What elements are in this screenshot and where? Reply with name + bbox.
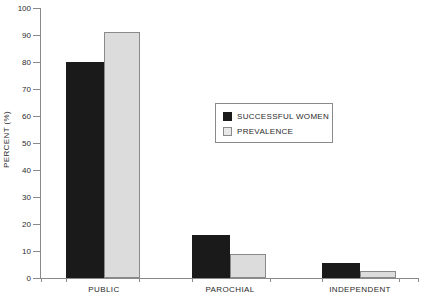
x-axis-tick xyxy=(66,278,67,282)
x-axis-category-label-public: PUBLIC xyxy=(88,285,119,294)
bar-chart: PERCENT (%) 0102030405060708090100 PUBLI… xyxy=(0,0,431,301)
legend-item-prevalence: PREVALENCE xyxy=(223,125,325,138)
y-axis-tick-label: 80 xyxy=(3,58,31,67)
x-axis-tick xyxy=(399,278,400,282)
y-axis-tick xyxy=(33,116,40,117)
y-axis-tick-label: 90 xyxy=(3,31,31,40)
chart-legend: SUCCESSFUL WOMEN PREVALENCE xyxy=(215,103,333,143)
x-axis-tick xyxy=(139,278,140,282)
y-axis-tick xyxy=(33,8,40,9)
x-axis-tick xyxy=(322,278,323,282)
y-axis-tick xyxy=(33,197,40,198)
legend-label-successful-women: SUCCESSFUL WOMEN xyxy=(237,112,329,121)
bar-independent-prevalence xyxy=(360,271,396,278)
y-axis-tick-label: 0 xyxy=(3,274,31,283)
y-axis-tick-label: 30 xyxy=(3,193,31,202)
y-axis-tick-label: 70 xyxy=(3,85,31,94)
bar-independent-successful-women xyxy=(322,263,360,278)
y-axis-tick xyxy=(33,251,40,252)
y-axis-tick xyxy=(33,35,40,36)
legend-item-successful-women: SUCCESSFUL WOMEN xyxy=(223,110,325,123)
legend-swatch-prevalence-icon xyxy=(223,127,232,136)
plot-area xyxy=(41,8,418,278)
y-axis-tick xyxy=(33,278,40,279)
bar-public-successful-women xyxy=(66,62,104,278)
y-axis-tick-label: 20 xyxy=(3,220,31,229)
y-axis-tick-label: 60 xyxy=(3,112,31,121)
bar-parochial-prevalence xyxy=(230,254,266,278)
y-axis-tick xyxy=(33,224,40,225)
x-axis-tick xyxy=(418,278,419,282)
x-axis-line xyxy=(40,278,418,279)
y-axis-tick xyxy=(33,143,40,144)
x-axis-tick xyxy=(41,278,42,282)
y-axis-tick-label: 50 xyxy=(3,139,31,148)
legend-label-prevalence: PREVALENCE xyxy=(237,127,293,136)
y-axis-tick xyxy=(33,170,40,171)
y-axis-tick-label: 100 xyxy=(3,4,31,13)
x-axis-category-label-parochial: PAROCHIAL xyxy=(205,285,254,294)
x-axis-category-label-independent: INDEPENDENT xyxy=(329,285,391,294)
x-axis-tick xyxy=(192,278,193,282)
y-axis-tick-label: 40 xyxy=(3,166,31,175)
y-axis-tick-label: 10 xyxy=(3,247,31,256)
y-axis-tick xyxy=(33,89,40,90)
x-axis-tick xyxy=(270,278,271,282)
bar-parochial-successful-women xyxy=(192,235,230,278)
bar-public-prevalence xyxy=(104,32,140,278)
legend-swatch-successful-women-icon xyxy=(223,112,232,121)
y-axis-tick xyxy=(33,62,40,63)
